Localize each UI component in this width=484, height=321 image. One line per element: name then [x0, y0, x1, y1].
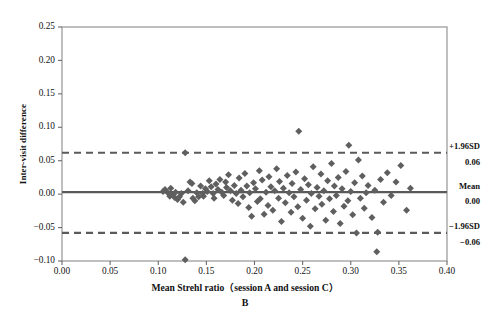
- data-point: [347, 188, 354, 195]
- data-point: [349, 211, 356, 218]
- x-tick-label: 0.05: [102, 266, 119, 276]
- data-point: [180, 199, 187, 206]
- data-point: [315, 193, 322, 200]
- data-point: [308, 190, 315, 197]
- data-point: [235, 200, 242, 207]
- data-point: [359, 173, 366, 180]
- data-point: [246, 189, 253, 196]
- data-point: [326, 195, 333, 202]
- data-point: [351, 179, 358, 186]
- reference-line-value-upper-limit-of-agreement: 0.06: [465, 157, 481, 167]
- data-point: [363, 189, 370, 196]
- y-tick-label: 0.00: [39, 188, 56, 198]
- data-point: [342, 168, 349, 175]
- data-point: [282, 199, 289, 206]
- x-axis-title: Mean Strehl ratio（session A and session …: [151, 282, 338, 293]
- data-point: [330, 208, 337, 215]
- data-point: [397, 162, 404, 169]
- data-point: [206, 177, 213, 184]
- x-tick-label: 0.35: [391, 266, 408, 276]
- data-point: [231, 182, 238, 189]
- x-axis-ticks: 0.000.050.100.150.200.250.300.350.40: [54, 261, 456, 276]
- data-point: [185, 187, 192, 194]
- scatter-plot-svg: 0.250.200.150.100.050.00−0.05−0.10 0.000…: [0, 0, 484, 321]
- y-tick-label: 0.15: [39, 88, 56, 98]
- data-point: [261, 211, 268, 218]
- data-point: [403, 207, 410, 214]
- data-point: [288, 209, 295, 216]
- data-point: [384, 169, 391, 176]
- data-point: [357, 195, 364, 202]
- data-point: [373, 248, 380, 255]
- data-point: [392, 179, 399, 186]
- x-tick-label: 0.20: [246, 266, 263, 276]
- data-point: [290, 193, 297, 200]
- data-point: [324, 177, 331, 184]
- data-point: [310, 163, 317, 170]
- data-point: [303, 197, 310, 204]
- data-point: [229, 197, 236, 204]
- data-point: [317, 171, 324, 178]
- data-point: [380, 199, 387, 206]
- reference-line-value-mean-difference: 0.00: [465, 196, 480, 206]
- data-point: [365, 182, 372, 189]
- data-point: [305, 181, 312, 188]
- data-point: [222, 179, 229, 186]
- y-tick-label: 0.25: [39, 21, 56, 31]
- data-point: [211, 195, 218, 202]
- data-point: [314, 184, 321, 191]
- y-tick-label: 0.10: [39, 121, 56, 131]
- reference-line-label-lower-limit-of-agreement: −1.96SD: [449, 221, 480, 231]
- bland-altman-figure: 0.250.200.150.100.050.00−0.05−0.10 0.000…: [0, 0, 484, 321]
- data-point: [331, 183, 338, 190]
- data-point: [275, 195, 282, 202]
- x-tick-label: 0.15: [198, 266, 215, 276]
- reference-line-label-mean-difference: Mean: [459, 181, 480, 191]
- data-point: [407, 185, 414, 192]
- data-point: [248, 213, 255, 220]
- y-tick-label: 0.05: [39, 155, 56, 165]
- data-point: [294, 203, 301, 210]
- x-tick-label: 0.00: [54, 266, 71, 276]
- reference-line-label-upper-limit-of-agreement: +1.96SD: [449, 141, 480, 151]
- data-point: [312, 205, 319, 212]
- data-point: [295, 128, 302, 135]
- data-point: [341, 203, 348, 210]
- data-point: [353, 229, 360, 236]
- panel-letter: B: [242, 297, 249, 308]
- data-point: [280, 185, 287, 192]
- data-point: [241, 170, 248, 177]
- data-point: [182, 149, 189, 156]
- data-point: [289, 180, 296, 187]
- data-point: [361, 205, 368, 212]
- data-point: [292, 169, 299, 176]
- data-point: [335, 174, 342, 181]
- data-point: [273, 165, 280, 172]
- data-point: [320, 187, 327, 194]
- data-point: [299, 215, 306, 222]
- plot-frame: [62, 27, 447, 261]
- data-point: [337, 220, 344, 227]
- y-tick-label: −0.10: [33, 255, 55, 265]
- y-tick-label: 0.20: [39, 55, 56, 65]
- data-point: [245, 204, 252, 211]
- reference-line-value-lower-limit-of-agreement: −0.06: [460, 237, 481, 247]
- data-point: [216, 176, 223, 183]
- reference-line-labels: +1.96SD0.06Mean0.00−1.96SD−0.06: [449, 141, 481, 247]
- data-point: [374, 229, 381, 236]
- data-point: [236, 175, 243, 182]
- data-point: [368, 214, 375, 221]
- data-point: [301, 175, 308, 182]
- data-point: [250, 179, 257, 186]
- x-tick-label: 0.30: [343, 266, 360, 276]
- data-point: [264, 202, 271, 209]
- data-point: [243, 183, 250, 190]
- data-point: [284, 172, 291, 179]
- data-point: [265, 173, 272, 180]
- data-point: [259, 177, 266, 184]
- x-tick-label: 0.10: [150, 266, 167, 276]
- data-point: [345, 142, 352, 149]
- data-point: [355, 157, 362, 164]
- x-tick-label: 0.40: [439, 266, 456, 276]
- reference-lines: [62, 153, 447, 233]
